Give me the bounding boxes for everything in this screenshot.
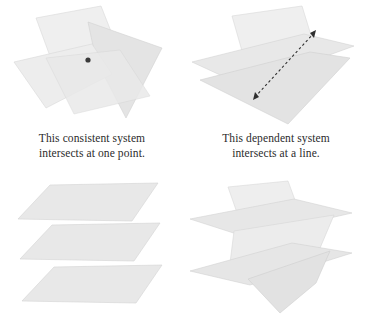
plane-group — [192, 6, 354, 124]
panel-dependent-line: This dependent system intersects at a li… — [184, 0, 368, 175]
plane-intersection-figure: This consistent system intersects at one… — [0, 0, 368, 323]
plane-bottom — [22, 265, 162, 303]
caption-line-1: This dependent system — [184, 131, 368, 146]
intersection-point-marker — [85, 57, 90, 62]
diagram-three-planes-line — [184, 0, 368, 131]
caption-line-1: This consistent system — [0, 131, 184, 146]
caption-consistent-one-point: This consistent system intersects at one… — [0, 131, 184, 160]
caption-line-2: intersects at a line. — [184, 146, 368, 161]
panel-intersecting-planes-no-common — [184, 175, 368, 323]
caption-line-2: intersects at one point. — [0, 146, 184, 161]
panel-parallel-planes — [0, 175, 184, 323]
panel-consistent-one-point: This consistent system intersects at one… — [0, 0, 184, 175]
diagram-three-planes-no-common-point — [184, 175, 368, 323]
caption-dependent-line: This dependent system intersects at a li… — [184, 131, 368, 160]
diagram-three-parallel-planes — [0, 175, 184, 323]
plane-middle — [20, 223, 160, 261]
diagram-three-planes-point — [0, 0, 184, 131]
plane-top — [18, 183, 158, 221]
